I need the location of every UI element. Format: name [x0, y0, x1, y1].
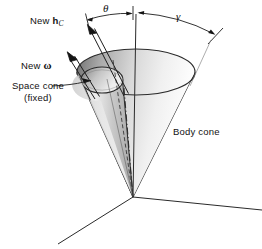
space-cone-label-line2: (fixed)	[2, 92, 74, 104]
gamma-generator-line	[190, 40, 211, 86]
theta-arc-path	[88, 13, 131, 19]
theta-angle-arc	[86, 6, 134, 26]
theta-arc-arrowhead-right	[126, 12, 133, 16]
reference-axis-left	[58, 197, 133, 244]
figure-container: New hC New ω Space cone (fixed) Body con…	[0, 0, 262, 249]
new-omega-prefix: New	[21, 60, 43, 71]
new-omega-label: New ω	[21, 59, 52, 72]
gamma-arc-arrowhead-right	[208, 30, 215, 35]
body-cone-label: Body cone	[173, 127, 220, 138]
h-vector-subscript: C	[58, 19, 63, 28]
space-cone-label: Space cone (fixed)	[2, 80, 74, 104]
new-h-prefix: New	[30, 15, 52, 26]
gamma-label: γ	[176, 10, 181, 23]
new-h-label: New hC	[30, 16, 64, 29]
omega-symbol: ω	[43, 59, 51, 71]
reference-axis-right	[133, 197, 262, 210]
space-cone-label-line1: Space cone	[2, 80, 74, 92]
gamma-arc-arrowhead-left	[138, 11, 145, 15]
theta-label: θ	[103, 2, 109, 15]
omega-vector-arrowhead	[67, 52, 77, 62]
diagram-canvas	[0, 0, 262, 249]
